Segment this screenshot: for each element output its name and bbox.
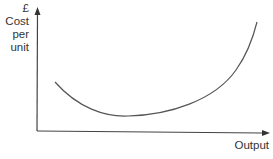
x-axis-label: Output xyxy=(234,139,269,151)
y-axis-arrow-icon xyxy=(35,7,41,15)
x-axis-line xyxy=(37,131,262,133)
x-axis-arrow-icon xyxy=(262,130,270,136)
x-axis xyxy=(37,130,270,136)
y-axis xyxy=(35,7,41,131)
y-axis-line xyxy=(37,14,38,131)
chart-plot-area xyxy=(0,0,273,159)
cost-curve xyxy=(55,22,257,116)
